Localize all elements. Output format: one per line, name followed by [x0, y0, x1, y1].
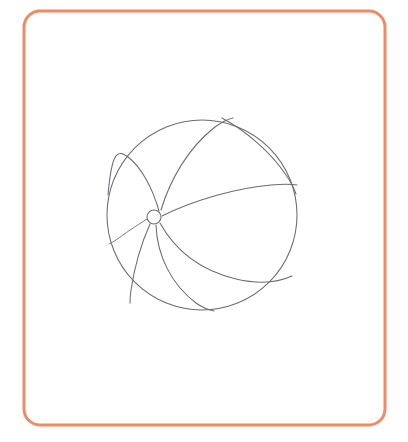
- beach-ball-illustration: [0, 0, 408, 442]
- page-background: [0, 0, 408, 442]
- drawing-canvas: [0, 0, 408, 442]
- center-hub-circle: [147, 210, 161, 224]
